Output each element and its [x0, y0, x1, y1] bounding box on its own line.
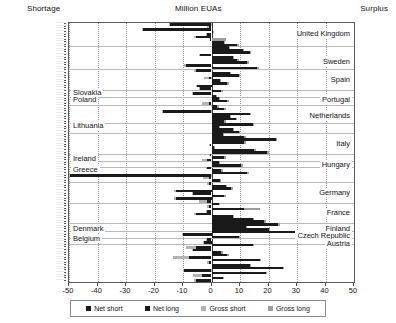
y-tick-mark — [64, 134, 66, 135]
y-tick-mark — [64, 177, 66, 178]
legend-item-net-short[interactable]: Net short — [86, 305, 122, 312]
y-tick-label: ————— — [56, 112, 64, 114]
y-tick-label: ————— — [56, 158, 64, 160]
y-tick-mark — [64, 116, 66, 117]
y-tick-label: ————— — [56, 176, 64, 178]
legend-item-net-long[interactable]: Net long — [145, 305, 179, 312]
y-tick-label: ————— — [56, 79, 64, 81]
x-tick-label: 20 — [263, 286, 271, 295]
y-tick-label: ————— — [56, 192, 64, 194]
x-tick-label: -20 — [148, 286, 159, 295]
y-tick-mark — [64, 51, 66, 52]
y-tick-mark — [64, 85, 66, 86]
y-tick-mark — [64, 59, 66, 60]
country-label-sweden: Sweden — [321, 57, 352, 66]
country-label-denmark: Denmark — [71, 224, 105, 233]
y-tick-label: ————— — [56, 171, 64, 173]
y-tick-label: ————— — [56, 258, 64, 260]
y-tick-mark — [64, 200, 66, 201]
y-tick-label: ————— — [56, 207, 64, 209]
y-tick-mark — [64, 259, 66, 260]
y-tick-label: ————— — [56, 104, 64, 106]
y-tick-label: ————— — [56, 243, 64, 245]
y-tick-label: ————— — [56, 140, 64, 142]
net-short-bar — [196, 279, 212, 282]
y-tick-mark — [64, 205, 66, 206]
chart-title: Million EUAs — [175, 4, 222, 13]
y-tick-mark — [64, 103, 66, 104]
y-tick-mark — [64, 213, 66, 214]
y-tick-mark — [64, 31, 66, 32]
y-tick-mark — [64, 36, 66, 37]
y-tick-mark — [64, 244, 66, 245]
y-tick-mark — [64, 126, 66, 127]
y-tick-mark — [64, 77, 66, 78]
y-tick-mark — [64, 49, 66, 50]
legend-item-gross-long[interactable]: Gross long — [268, 305, 310, 312]
y-tick-mark — [64, 64, 66, 65]
y-tick-label: ————— — [56, 268, 64, 270]
y-tick-mark — [64, 39, 66, 40]
legend-label: Net short — [94, 305, 122, 312]
y-tick-label: ————— — [56, 94, 64, 96]
country-label-portugal: Portugal — [320, 95, 352, 104]
y-tick-mark — [64, 144, 66, 145]
y-tick-label: ————— — [56, 81, 64, 83]
y-tick-label: ————— — [56, 43, 64, 45]
y-tick-label: ————— — [56, 89, 64, 91]
y-tick-mark — [64, 41, 66, 42]
y-tick-mark — [64, 90, 66, 91]
y-tick-label: ————— — [56, 240, 64, 242]
y-tick-mark — [64, 69, 66, 70]
y-tick-label: ————— — [56, 225, 64, 227]
y-tick-mark — [64, 203, 66, 204]
y-tick-label: ————— — [56, 233, 64, 235]
y-tick-label: ————— — [56, 138, 64, 140]
y-tick-mark — [64, 228, 66, 229]
y-tick-mark — [64, 252, 66, 253]
y-tick-label: ————— — [56, 56, 64, 58]
y-tick-label: ————— — [56, 130, 64, 132]
legend-item-gross-short[interactable]: Gross short — [201, 305, 245, 312]
legend-label: Gross short — [209, 305, 245, 312]
y-tick-label: ————— — [56, 76, 64, 78]
y-tick-mark — [64, 152, 66, 153]
y-tick-mark — [64, 267, 66, 268]
y-tick-label: ————— — [56, 251, 64, 253]
y-tick-mark — [64, 98, 66, 99]
vertical-gridline — [354, 23, 355, 282]
y-tick-label: ————— — [56, 163, 64, 165]
y-tick-label: ————— — [56, 266, 64, 268]
y-tick-label: ————— — [56, 181, 64, 183]
y-tick-label: ————— — [56, 248, 64, 250]
y-tick-label: ————— — [56, 40, 64, 42]
country-label-netherlands: Netherlands — [308, 111, 352, 120]
y-tick-label: ————— — [56, 204, 64, 206]
y-tick-mark — [64, 234, 66, 235]
surplus-label: Surplus — [360, 4, 388, 13]
y-tick-mark — [64, 128, 66, 129]
y-tick-mark — [64, 108, 66, 109]
y-tick-label: ————— — [56, 97, 64, 99]
x-tick-label: 30 — [292, 286, 300, 295]
y-tick-label: ————— — [56, 71, 64, 73]
y-tick-label: ————— — [56, 151, 64, 153]
chart-root: Shortage Million EUAs Surplus ——————————… — [0, 0, 396, 323]
y-tick-mark — [64, 187, 66, 188]
y-tick-label: ————— — [56, 156, 64, 158]
y-tick-label: ————— — [56, 120, 64, 122]
y-tick-label: ————— — [56, 235, 64, 237]
y-tick-mark — [64, 190, 66, 191]
y-tick-label: ————— — [56, 50, 64, 52]
y-tick-mark — [64, 241, 66, 242]
y-tick-label: ————— — [56, 48, 64, 50]
y-tick-label: ————— — [56, 217, 64, 219]
y-tick-mark — [64, 246, 66, 247]
x-tick-label: 40 — [320, 286, 328, 295]
legend-swatch-gross-short — [201, 306, 206, 311]
y-tick-mark — [64, 62, 66, 63]
y-tick-mark — [64, 75, 66, 76]
y-tick-mark — [64, 195, 66, 196]
bar-row — [69, 279, 354, 282]
y-tick-mark — [64, 182, 66, 183]
